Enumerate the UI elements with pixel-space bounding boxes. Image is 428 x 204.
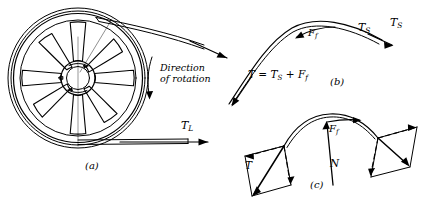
label-tight-side-tension-a: TS [358, 22, 370, 35]
belt-tight-side [96, 18, 227, 59]
rotation-direction-arrow [146, 57, 153, 100]
label-tension-equation: T = TS + Ff [248, 69, 308, 82]
pgram-side [410, 127, 417, 167]
ts-b-arrow-head [384, 42, 394, 49]
label-load-tension-a: TL [181, 120, 193, 133]
ff-b-arrow-head [295, 32, 304, 39]
component-dashed [371, 138, 378, 173]
label-normal-force-c: N [330, 158, 339, 170]
ts-arrow-head [217, 52, 228, 58]
label-friction-force-c: Ff [329, 123, 338, 137]
label-friction-force-b: Ff [308, 27, 317, 41]
label-resultant-tension-c: T [245, 160, 252, 172]
left-force-parallelogram [245, 146, 295, 197]
resultant-vector-right [378, 138, 407, 164]
label-direction-of-rotation: Direction of rotation [160, 63, 211, 84]
pgram-side [371, 167, 410, 177]
spoke [22, 70, 62, 86]
resultant-vector-right-head [401, 157, 410, 166]
belt-load-edge-bottom [78, 144, 188, 145]
component-dashed-head [408, 124, 417, 131]
caption-panel-a: (a) [85, 160, 99, 171]
figure-belt-pulley-forces: TS TL Direction of rotation (a) TS Ff T … [0, 0, 428, 204]
pulley-assembly [8, 8, 148, 148]
ts-b-arrow-shaft [368, 34, 392, 45]
belt-load-edge-top [78, 139, 188, 140]
belt-arc-inner [232, 26, 379, 105]
tl-arrow-head [199, 139, 209, 146]
label-slack-side-tension-b: TS [390, 17, 402, 30]
right-force-parallelogram [368, 124, 417, 177]
direction-line-2: of rotation [160, 74, 211, 85]
spoke [95, 70, 135, 86]
caption-panel-b: (b) [330, 76, 344, 87]
caption-panel-c: (c) [310, 179, 323, 190]
component-dashed-head [288, 176, 295, 184]
